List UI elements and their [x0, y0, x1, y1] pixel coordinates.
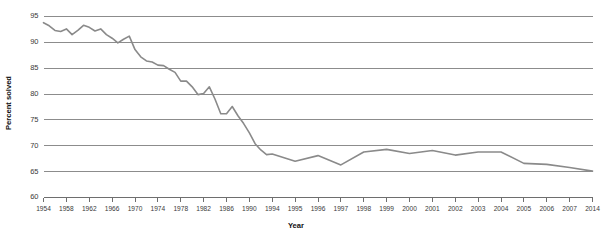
x-tick-label-1990: 1990: [242, 205, 257, 212]
x-tick-label-1966: 1966: [105, 205, 120, 212]
y-tick-label-70: 70: [30, 141, 38, 150]
x-tick-label-1999: 1999: [379, 205, 394, 212]
x-tick-label-1995: 1995: [288, 205, 303, 212]
x-tick-label-2007: 2007: [562, 205, 577, 212]
x-tick-label-1974: 1974: [151, 205, 166, 212]
x-tick-label-2001: 2001: [425, 205, 440, 212]
x-tick-label-1978: 1978: [173, 205, 188, 212]
x-tick-label-1958: 1958: [59, 205, 74, 212]
x-tick-label-2000: 2000: [402, 205, 417, 212]
y-tick-label-75: 75: [30, 115, 38, 124]
y-tick-label-95: 95: [30, 11, 38, 20]
y-tick-labels-group: 6065707580859095: [30, 11, 38, 201]
x-tick-label-1970: 1970: [128, 205, 143, 212]
y-tick-label-90: 90: [30, 37, 38, 46]
y-tick-label-85: 85: [30, 63, 38, 72]
x-axis-group: [44, 198, 593, 202]
x-tick-label-1962: 1962: [82, 205, 97, 212]
x-tick-label-1998: 1998: [356, 205, 371, 212]
x-tick-labels-group: 1954195819621966197019741978198219861990…: [36, 205, 600, 212]
chart-container: 6065707580859095 19541958196219661970197…: [0, 0, 611, 240]
x-tick-label-2005: 2005: [517, 205, 532, 212]
x-tick-label-2003: 2003: [471, 205, 486, 212]
line-chart: 6065707580859095 19541958196219661970197…: [0, 0, 611, 240]
x-tick-label-1982: 1982: [196, 205, 211, 212]
x-tick-label-1997: 1997: [334, 205, 349, 212]
x-tick-label-1954: 1954: [36, 205, 51, 212]
x-tick-label-2006: 2006: [539, 205, 554, 212]
x-tick-label-1996: 1996: [311, 205, 326, 212]
x-tick-label-1994: 1994: [265, 205, 280, 212]
x-axis-title: Year: [288, 221, 304, 230]
y-tick-label-65: 65: [30, 167, 38, 176]
x-tick-label-2014: 2014: [585, 205, 600, 212]
y-tick-label-80: 80: [30, 89, 38, 98]
y-axis-title: Percent solved: [4, 76, 13, 130]
x-tick-label-2002: 2002: [448, 205, 463, 212]
y-tick-label-60: 60: [30, 192, 38, 201]
x-tick-label-2004: 2004: [494, 205, 509, 212]
x-tick-label-1986: 1986: [219, 205, 234, 212]
percent-solved-line: [44, 23, 593, 171]
gridlines-group: [44, 17, 593, 172]
